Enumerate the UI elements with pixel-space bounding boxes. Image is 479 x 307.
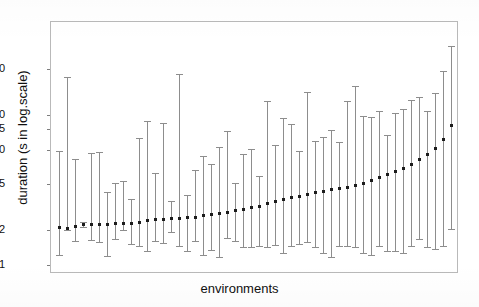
error-bar-line bbox=[307, 92, 308, 242]
error-bar-cap-upper bbox=[176, 74, 183, 75]
data-point-marker bbox=[210, 213, 213, 216]
data-point-marker bbox=[322, 190, 325, 193]
error-bar-line bbox=[259, 176, 260, 245]
y-axis-title: duration (s in log.scale) bbox=[15, 38, 30, 238]
error-bar-cap-upper bbox=[152, 173, 159, 174]
y-tick-label: 2.0 bbox=[0, 109, 5, 120]
data-point-marker bbox=[90, 223, 93, 226]
error-bar-cap-lower bbox=[376, 246, 383, 247]
error-bar-line bbox=[227, 131, 228, 238]
error-bar-line bbox=[387, 135, 388, 250]
y-tick-label: 5.0 bbox=[0, 63, 5, 74]
y-tick-label: 1.0 bbox=[0, 144, 5, 155]
error-bar-line bbox=[195, 170, 196, 241]
error-bar-line bbox=[347, 101, 348, 246]
data-point-marker bbox=[178, 217, 181, 220]
error-bar-line bbox=[99, 152, 100, 243]
error-bar-cap-lower bbox=[144, 251, 151, 252]
error-bar-cap-upper bbox=[224, 131, 231, 132]
error-bar-line bbox=[267, 101, 268, 248]
error-bar-cap-upper bbox=[240, 154, 247, 155]
error-bar-cap-lower bbox=[176, 246, 183, 247]
error-bar-line bbox=[339, 142, 340, 245]
data-point-marker bbox=[418, 158, 421, 161]
y-tick-label: 0.1 bbox=[0, 259, 5, 270]
error-bar-cap-lower bbox=[312, 247, 319, 248]
error-bar-cap-lower bbox=[256, 246, 263, 247]
error-bar-cap-upper bbox=[360, 116, 367, 117]
error-bar-cap-upper bbox=[192, 170, 199, 171]
error-bar-cap-upper bbox=[160, 123, 167, 124]
error-bar-cap-upper bbox=[368, 117, 375, 118]
error-bar-line bbox=[275, 145, 276, 245]
error-bar-cap-lower bbox=[336, 246, 343, 247]
error-bar-cap-lower bbox=[184, 251, 191, 252]
data-point-marker bbox=[442, 138, 445, 141]
y-tick-label: 1.5 bbox=[0, 123, 5, 134]
error-bar-line bbox=[427, 111, 428, 247]
error-bar-cap-upper bbox=[208, 164, 215, 165]
error-bar-cap-upper bbox=[264, 101, 271, 102]
error-bar-cap-lower bbox=[408, 246, 415, 247]
error-bar-cap-upper bbox=[424, 111, 431, 112]
error-bar-cap-upper bbox=[248, 149, 255, 150]
error-bar-cap-upper bbox=[408, 100, 415, 101]
error-bar-line bbox=[211, 164, 212, 249]
figure-root: 0.10.20.51.01.52.05.0 duration (s in log… bbox=[0, 0, 479, 307]
error-bar-cap-lower bbox=[80, 227, 87, 228]
data-point-marker bbox=[194, 216, 197, 219]
error-bar-cap-lower bbox=[400, 253, 407, 254]
data-point-marker bbox=[122, 222, 125, 225]
error-bar-cap-lower bbox=[216, 257, 223, 258]
error-bar-cap-upper bbox=[144, 121, 151, 122]
data-point-marker bbox=[386, 173, 389, 176]
error-bar-cap-lower bbox=[448, 229, 455, 230]
error-bar-cap-lower bbox=[224, 238, 231, 239]
error-bar-cap-upper bbox=[416, 97, 423, 98]
error-bar-cap-lower bbox=[288, 246, 295, 247]
error-bar-cap-upper bbox=[272, 145, 279, 146]
error-bar-line bbox=[171, 201, 172, 232]
error-bar-line bbox=[59, 151, 60, 256]
error-bar-line bbox=[251, 149, 252, 247]
error-bar-line bbox=[187, 195, 188, 251]
data-point-marker bbox=[162, 218, 165, 221]
error-bar-line bbox=[395, 113, 396, 250]
error-bar-cap-lower bbox=[272, 245, 279, 246]
data-point-marker bbox=[106, 223, 109, 226]
data-point-marker bbox=[170, 217, 173, 220]
error-bar-cap-upper bbox=[400, 109, 407, 110]
data-point-marker bbox=[410, 163, 413, 166]
error-bar-cap-lower bbox=[432, 249, 439, 250]
error-bar-line bbox=[411, 100, 412, 246]
error-bar-cap-upper bbox=[96, 152, 103, 153]
error-bar-cap-upper bbox=[112, 183, 119, 184]
error-bar-cap-upper bbox=[376, 111, 383, 112]
error-bar-cap-upper bbox=[256, 176, 263, 177]
data-point-marker bbox=[426, 153, 429, 156]
data-point-marker bbox=[130, 222, 133, 225]
error-bar-cap-lower bbox=[248, 247, 255, 248]
error-bar-cap-lower bbox=[424, 247, 431, 248]
error-bar-line bbox=[243, 154, 244, 247]
error-bar-line bbox=[163, 123, 164, 244]
error-bar-line bbox=[147, 121, 148, 251]
error-bar-line bbox=[91, 153, 92, 240]
error-bar-cap-lower bbox=[416, 239, 423, 240]
error-bar-cap-upper bbox=[136, 138, 143, 139]
error-bar-cap-upper bbox=[184, 195, 191, 196]
error-bar-cap-upper bbox=[384, 135, 391, 136]
error-bar-line bbox=[155, 173, 156, 242]
error-bar-cap-upper bbox=[312, 141, 319, 142]
error-bar-cap-upper bbox=[56, 151, 63, 152]
error-bar-cap-lower bbox=[344, 246, 351, 247]
x-axis-title: environments bbox=[0, 281, 479, 296]
error-bar-cap-upper bbox=[216, 147, 223, 148]
error-bar-line bbox=[115, 183, 116, 238]
error-bar-cap-lower bbox=[72, 241, 79, 242]
error-bar-line bbox=[331, 130, 332, 257]
error-bar-cap-lower bbox=[56, 255, 63, 256]
error-bar-line bbox=[291, 124, 292, 246]
error-bar-cap-upper bbox=[128, 199, 135, 200]
data-point-marker bbox=[98, 223, 101, 226]
